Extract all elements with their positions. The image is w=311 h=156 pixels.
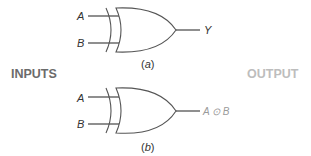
gate-a-xor-curve [106, 8, 111, 52]
gate-b-caption: (b) [141, 141, 154, 153]
gate-b-xor-curve [106, 88, 111, 133]
gate-b-body [116, 88, 176, 133]
gate-b-input-a-label: A [76, 92, 84, 104]
xor-gate-a: A B Y (a) [76, 8, 212, 70]
gate-a-output-label: Y [204, 24, 212, 36]
xor-gate-b: A B A ⊙ B (b) [76, 88, 230, 153]
gate-a-input-b-label: B [77, 37, 84, 49]
output-heading: OUTPUT [247, 67, 299, 81]
gate-a-body [116, 8, 176, 52]
gate-a-input-a-label: A [76, 10, 84, 22]
logic-gate-diagram: INPUTS OUTPUT A B Y (a) A B A ⊙ B (b) [0, 0, 311, 156]
gate-b-output-label: A ⊙ B [202, 106, 230, 117]
gate-b-input-b-label: B [77, 118, 84, 130]
gate-a-caption: (a) [141, 58, 154, 70]
inputs-heading: INPUTS [11, 67, 57, 81]
